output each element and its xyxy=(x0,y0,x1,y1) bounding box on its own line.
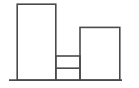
shape-diagram xyxy=(0,0,139,88)
left-tall-rectangle xyxy=(17,4,56,80)
right-rectangle xyxy=(80,27,120,80)
diagram-canvas xyxy=(0,0,139,88)
